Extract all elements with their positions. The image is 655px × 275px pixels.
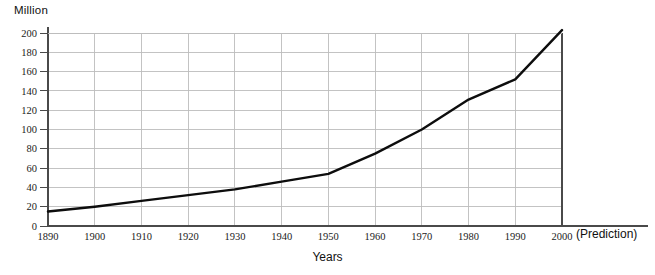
x-tick-label: 1890 bbox=[38, 231, 59, 242]
y-tick-label: 200 bbox=[21, 28, 37, 39]
y-axis-tick-labels: 020406080100120140160180200 bbox=[21, 28, 37, 232]
x-tick-label: 1960 bbox=[365, 231, 386, 242]
gridlines-horizontal bbox=[48, 33, 562, 207]
x-tick-label: 1980 bbox=[458, 231, 479, 242]
x-tick-label: 1900 bbox=[84, 231, 105, 242]
x-tick-label: 1970 bbox=[411, 231, 432, 242]
y-axis-tick-marks bbox=[40, 33, 48, 226]
x-tick-label: 1990 bbox=[505, 231, 526, 242]
chart-plot-area: 020406080100120140160180200 189019001910… bbox=[0, 0, 655, 275]
population-trend-line bbox=[48, 30, 562, 211]
x-tick-label: 1950 bbox=[318, 231, 339, 242]
x-tick-label: 1910 bbox=[131, 231, 152, 242]
x-axis-title: Years bbox=[0, 250, 655, 264]
x-tick-label: 2000 bbox=[552, 231, 573, 242]
y-tick-label: 100 bbox=[21, 124, 37, 135]
data-series-population bbox=[48, 30, 562, 211]
y-tick-label: 180 bbox=[21, 47, 37, 58]
y-tick-label: 40 bbox=[27, 182, 38, 193]
axis-lines bbox=[48, 27, 648, 226]
x-tick-label: 1930 bbox=[224, 231, 245, 242]
y-tick-label: 80 bbox=[27, 143, 38, 154]
prediction-annotation: (Prediction) bbox=[576, 227, 637, 241]
y-tick-label: 160 bbox=[21, 66, 37, 77]
x-tick-label: 1940 bbox=[271, 231, 292, 242]
y-tick-label: 20 bbox=[27, 201, 38, 212]
y-tick-label: 140 bbox=[21, 86, 37, 97]
population-line-chart: Million 020406080100120140160180200 1890… bbox=[0, 0, 655, 275]
y-tick-label: 0 bbox=[32, 221, 37, 232]
y-tick-label: 120 bbox=[21, 105, 37, 116]
x-tick-label: 1920 bbox=[178, 231, 199, 242]
x-axis-tick-labels: 1890190019101920193019401950196019701980… bbox=[38, 231, 573, 242]
y-tick-label: 60 bbox=[27, 163, 38, 174]
